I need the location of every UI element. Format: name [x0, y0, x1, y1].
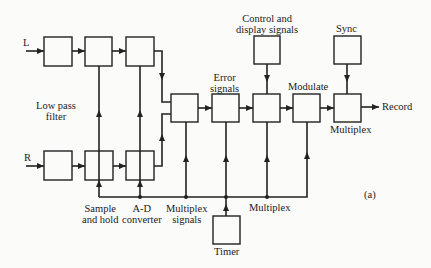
arrow-icon	[264, 75, 270, 82]
arrow-icon	[223, 204, 229, 211]
input-r-label: R	[24, 152, 31, 163]
arrow-icon	[159, 73, 165, 80]
block-modulate	[293, 94, 320, 122]
arrow-icon	[223, 155, 229, 162]
multiplex-signals-label: Multiplex signals	[166, 203, 207, 225]
block-sh-l	[85, 37, 112, 66]
modulate-label: Modulate	[288, 81, 328, 92]
arrow-icon	[246, 105, 253, 111]
block-error	[212, 94, 239, 122]
arrow-icon	[37, 48, 44, 54]
ad-converter-label: A-D converter	[122, 203, 162, 225]
sync-label: Sync	[336, 23, 357, 34]
arrow-icon	[78, 48, 85, 54]
arrow-icon	[372, 104, 379, 110]
block-lpf-r	[44, 151, 72, 180]
arrow-icon	[96, 180, 102, 187]
record-label: Record	[382, 101, 412, 112]
arrow-icon	[96, 110, 102, 117]
block-control-mux	[253, 94, 280, 122]
arrow-icon	[183, 155, 189, 162]
block-sync	[334, 36, 361, 64]
arrow-icon	[304, 152, 310, 159]
arrow-icon	[78, 163, 85, 169]
input-l-label: L	[23, 37, 29, 48]
sample-and-hold-label: Sample and hold	[82, 203, 118, 225]
arrow-icon	[119, 163, 126, 169]
arrow-icon	[327, 105, 334, 111]
error-signals-label: Error signals	[210, 72, 239, 94]
arrow-icon	[286, 105, 293, 111]
arrow-icon	[205, 105, 212, 111]
block-final-mux	[334, 94, 361, 122]
arrow-icon	[159, 134, 165, 141]
arrow-icon	[264, 155, 270, 162]
block-mux-signals	[171, 94, 198, 122]
block-control-display	[254, 36, 280, 64]
arrow-icon	[119, 48, 126, 54]
figure-tag: (a)	[364, 189, 376, 200]
arrow-icon	[137, 180, 143, 187]
multiplex-out-label: Multiplex	[330, 124, 371, 135]
block-lpf-l	[44, 37, 72, 66]
block-timer	[213, 216, 240, 244]
arrow-icon	[37, 163, 44, 169]
block-adc-l	[126, 37, 154, 66]
control-display-label: Control and display signals	[236, 13, 298, 35]
multiplex-bus-label: Multiplex	[249, 202, 290, 213]
arrow-icon	[344, 75, 350, 82]
low-pass-filter-label: Low pass filter	[36, 100, 76, 122]
arrow-icon	[137, 110, 143, 117]
timer-label: Timer	[214, 246, 239, 257]
